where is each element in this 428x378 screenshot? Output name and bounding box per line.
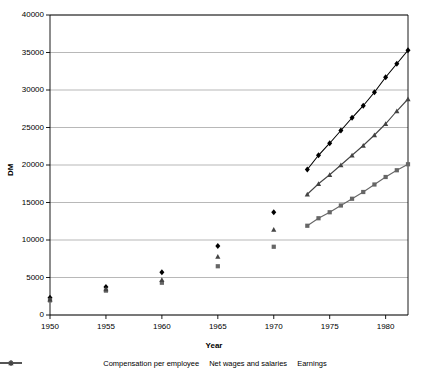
data-point-marker <box>339 203 343 207</box>
legend-item-label: Compensation per employee <box>103 359 199 368</box>
series-line <box>307 164 408 226</box>
legend-item-label: Earnings <box>297 359 327 368</box>
x-axis-tick-label: 1980 <box>366 323 406 331</box>
y-axis-tick-label: 25000 <box>0 124 44 132</box>
x-axis-tick-label: 1960 <box>142 323 182 331</box>
y-axis-tick-label: 20000 <box>0 161 44 169</box>
y-axis-tick-label: 15000 <box>0 199 44 207</box>
x-axis-tick-label: 1955 <box>86 323 126 331</box>
x-axis-tick-label: 1965 <box>198 323 238 331</box>
y-axis-tick-label: 40000 <box>0 11 44 19</box>
data-point-marker <box>216 264 220 268</box>
data-point-marker <box>159 277 164 282</box>
chart-legend: Compensation per employee Net wages and … <box>0 358 428 368</box>
data-point-marker <box>272 245 276 249</box>
data-point-marker <box>215 243 220 249</box>
data-point-marker <box>350 197 354 201</box>
series-line <box>307 50 408 169</box>
data-point-marker <box>406 162 410 166</box>
x-axis-tick-label: 1975 <box>310 323 350 331</box>
series-line <box>307 99 408 194</box>
x-axis-tick-label: 1970 <box>254 323 294 331</box>
data-point-marker <box>316 216 320 220</box>
data-point-marker <box>361 190 365 194</box>
y-axis-tick-label: 0 <box>0 311 44 319</box>
legend-item[interactable]: Net wages and salaries <box>207 358 287 368</box>
data-point-marker <box>305 224 309 228</box>
y-axis-tick-label: 10000 <box>0 236 44 244</box>
y-axis-tick-label: 30000 <box>0 86 44 94</box>
legend-item-label: Net wages and salaries <box>209 359 287 368</box>
data-point-marker <box>271 227 276 232</box>
data-point-marker <box>395 168 399 172</box>
legend-item[interactable]: Compensation per employee <box>101 358 199 368</box>
data-point-marker <box>372 182 376 186</box>
x-axis-tick-label: 1950 <box>30 323 70 331</box>
y-axis-tick-label: 5000 <box>0 274 44 282</box>
y-axis-tick-label: 35000 <box>0 49 44 57</box>
data-point-marker <box>215 254 220 259</box>
data-point-marker <box>384 175 388 179</box>
chart-container: DM Year 05000100001500020000250003000035… <box>0 0 428 378</box>
data-point-marker <box>328 210 332 214</box>
x-axis-title: Year <box>0 341 428 350</box>
data-point-marker <box>405 96 410 101</box>
data-point-marker <box>159 269 164 275</box>
legend-item[interactable]: Earnings <box>295 358 327 368</box>
data-point-marker <box>271 209 276 215</box>
